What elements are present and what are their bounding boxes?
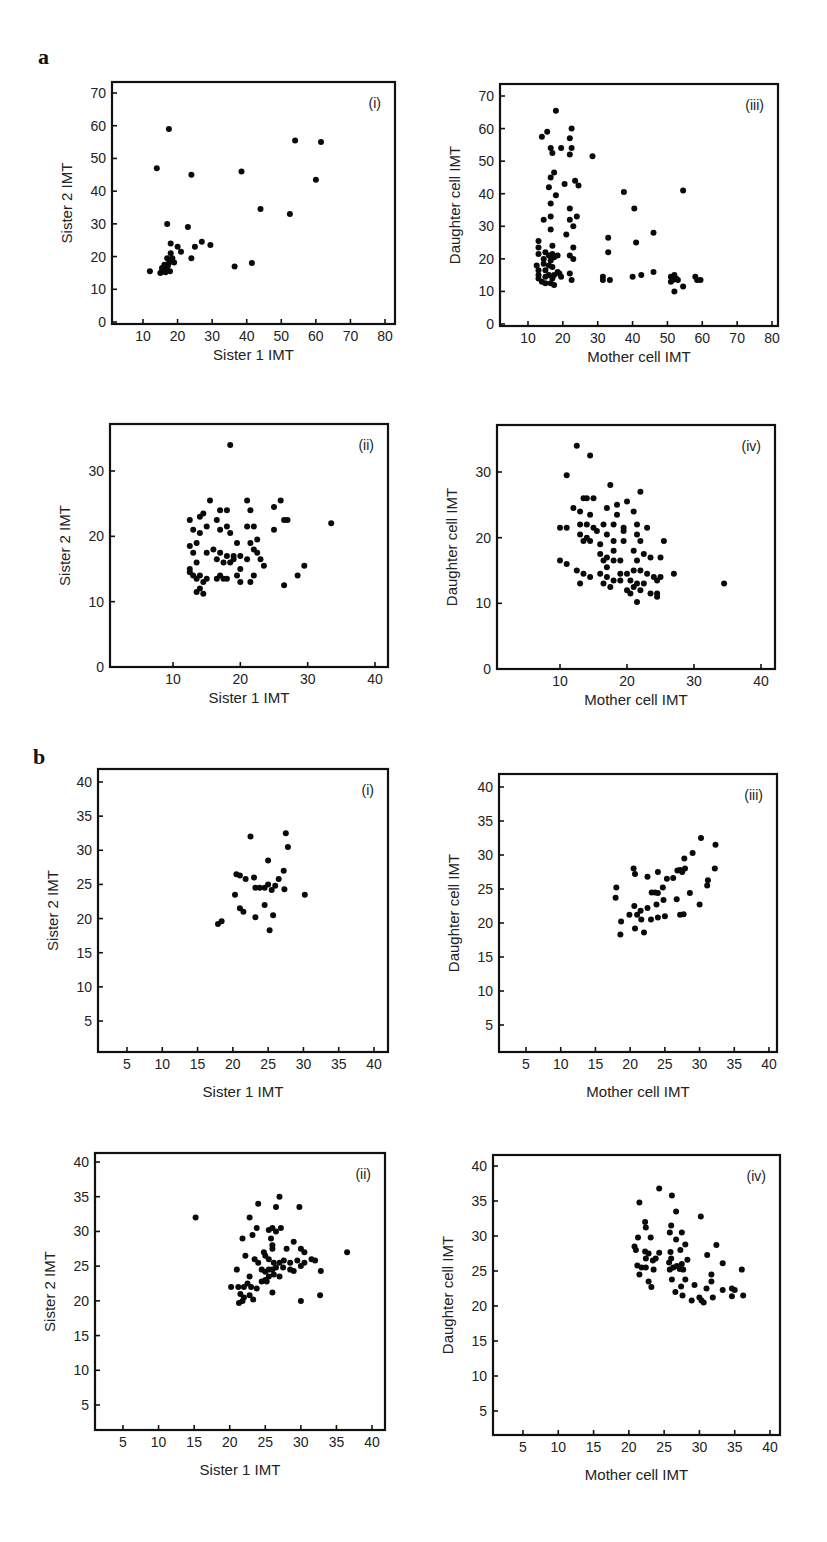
x-tick-label: 10 <box>135 328 151 344</box>
data-point <box>549 264 555 270</box>
data-point <box>193 1215 199 1221</box>
data-point <box>641 930 647 936</box>
x-tick-label: 25 <box>257 1434 273 1450</box>
data-point <box>188 255 194 261</box>
data-point <box>684 1257 690 1263</box>
x-tick-label: 40 <box>753 673 769 689</box>
x-tick-label: 5 <box>519 1439 527 1455</box>
data-point <box>604 574 610 580</box>
data-point <box>644 571 650 577</box>
x-tick-label: 70 <box>343 328 359 344</box>
data-point <box>651 230 657 236</box>
scatter-panel-b-ii: 510152025303540510152025303540Sister 1 I… <box>41 1153 385 1478</box>
data-point <box>682 866 688 872</box>
data-point <box>273 1265 279 1271</box>
y-tick-label: 40 <box>73 1154 89 1170</box>
data-point <box>577 581 583 587</box>
data-point <box>681 911 687 917</box>
data-point <box>235 1284 241 1290</box>
data-point <box>294 1258 300 1264</box>
data-point <box>219 918 225 924</box>
data-point <box>192 244 198 250</box>
y-tick-label: 20 <box>76 911 92 927</box>
plot-frame <box>493 1155 780 1435</box>
data-point <box>594 528 600 534</box>
data-point <box>721 581 727 587</box>
y-tick-label: 40 <box>478 186 494 202</box>
data-point <box>638 272 644 278</box>
data-point <box>548 174 554 180</box>
data-point <box>634 531 640 537</box>
data-point <box>261 563 267 569</box>
data-point <box>662 913 668 919</box>
data-point <box>548 227 554 233</box>
scatter-panel-a-i: 1020304050607080010203040506070Sister 1 … <box>58 82 395 363</box>
data-point <box>281 868 287 874</box>
data-point <box>242 1253 248 1259</box>
data-point <box>671 288 677 294</box>
x-tick-label: 10 <box>165 671 181 687</box>
y-tick-label: 25 <box>73 1258 89 1274</box>
data-point <box>601 558 607 564</box>
y-tick-label: 10 <box>90 281 106 297</box>
data-point <box>704 1286 710 1292</box>
data-point <box>199 239 205 245</box>
y-tick-label: 10 <box>477 983 493 999</box>
data-point <box>621 189 627 195</box>
data-point <box>701 1300 707 1306</box>
data-point <box>643 1265 649 1271</box>
data-point <box>576 183 582 189</box>
data-point <box>549 243 555 249</box>
x-tick-label: 30 <box>692 1439 708 1455</box>
data-point <box>682 1241 688 1247</box>
data-point <box>232 892 238 898</box>
data-point <box>549 150 555 156</box>
data-point <box>698 835 704 841</box>
y-tick-label: 15 <box>73 1328 89 1344</box>
y-tick-label: 30 <box>73 1223 89 1239</box>
y-tick-label: 10 <box>478 283 494 299</box>
y-tick-label: 50 <box>478 153 494 169</box>
y-tick-label: 20 <box>478 251 494 267</box>
data-point <box>551 282 557 288</box>
data-point <box>732 1287 738 1293</box>
x-tick-label: 50 <box>660 330 676 346</box>
data-point <box>197 514 203 520</box>
panel-label: (iv) <box>747 1168 766 1184</box>
x-tick-label: 15 <box>186 1434 202 1450</box>
data-point <box>262 902 268 908</box>
data-point <box>318 139 324 145</box>
y-axis-label: Sister 2 IMT <box>56 505 73 586</box>
y-tick-label: 10 <box>475 595 491 611</box>
data-point <box>278 1225 284 1231</box>
data-point <box>224 553 230 559</box>
data-point <box>631 903 637 909</box>
data-point <box>224 524 230 530</box>
data-point <box>254 1285 260 1291</box>
data-point <box>296 1204 302 1210</box>
data-point <box>168 250 174 256</box>
data-point <box>643 1225 649 1231</box>
data-points <box>187 442 334 597</box>
data-point <box>605 249 611 255</box>
data-point <box>553 192 559 198</box>
x-tick-label: 25 <box>656 1439 672 1455</box>
data-point <box>188 172 194 178</box>
x-tick-label: 30 <box>300 671 316 687</box>
data-point <box>637 568 643 574</box>
data-point <box>633 1247 639 1253</box>
data-point <box>557 558 563 564</box>
data-point <box>607 482 613 488</box>
data-point <box>558 145 564 151</box>
data-point <box>654 577 660 583</box>
data-point <box>611 522 617 528</box>
data-point <box>710 1295 716 1301</box>
data-point <box>675 277 681 283</box>
data-point <box>680 1267 686 1273</box>
data-point <box>635 1234 641 1240</box>
data-point <box>644 525 650 531</box>
data-point <box>687 890 693 896</box>
x-tick-label: 40 <box>762 1439 778 1455</box>
data-point <box>283 830 289 836</box>
data-point <box>250 1297 256 1303</box>
